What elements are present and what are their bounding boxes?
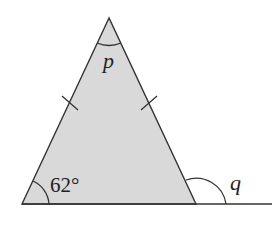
exterior-angle-label: q: [230, 170, 241, 195]
apex-angle-label: p: [101, 48, 114, 73]
base-angle-label: 62°: [50, 173, 79, 197]
triangle-diagram: p 62° q: [0, 0, 273, 233]
